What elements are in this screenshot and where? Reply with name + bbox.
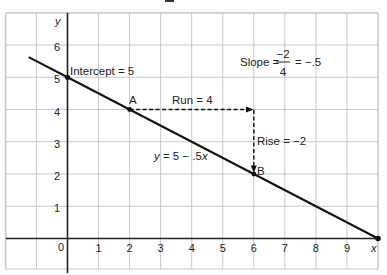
- y-tick-label: 6: [54, 41, 60, 53]
- y-tick-label: 4: [54, 106, 60, 118]
- line-series: [29, 57, 378, 238]
- point-b: [251, 172, 256, 177]
- intercept-label: Intercept = 5: [70, 65, 134, 77]
- point-b-label: B: [257, 165, 265, 177]
- slope-numerator: −2: [276, 48, 289, 60]
- point-a-label: A: [129, 94, 137, 106]
- y-tick-label: 3: [54, 138, 60, 150]
- y-tick-label: 5: [54, 73, 60, 85]
- x-tick-label: 7: [282, 242, 288, 254]
- origin-label: 0: [58, 241, 64, 253]
- run-label: Run = 4: [172, 94, 213, 106]
- x-tick-label: 1: [95, 242, 101, 254]
- cropped-title-fragment: [165, 0, 174, 2]
- slope-result: = −.5: [295, 56, 321, 68]
- x-tick-label: 2: [127, 242, 133, 254]
- run-arrowhead-icon: [246, 107, 254, 113]
- x-tick-label: 5: [220, 242, 226, 254]
- slope-prefix: Slope =: [240, 56, 280, 68]
- x-tick-label: 4: [189, 242, 195, 254]
- x-tick-label: 9: [344, 242, 350, 254]
- equation-x: x: [201, 150, 209, 162]
- equation-body: = 5 − .5: [160, 150, 202, 162]
- point-a: [127, 107, 132, 112]
- y-tick-label: 2: [54, 170, 60, 182]
- equation-label: y = 5 − .5x: [153, 150, 209, 162]
- rise-label: Rise = −2: [257, 135, 306, 147]
- x-tick-label: 8: [313, 242, 319, 254]
- slope-chart: 123456789123456 y x 0 Intercept = 5 A B …: [0, 0, 387, 275]
- x-tick-label: 6: [251, 242, 257, 254]
- slope-denominator: 4: [280, 66, 287, 78]
- y-axis-label: y: [54, 15, 62, 27]
- x-axis-label: x: [370, 242, 377, 254]
- y-tick-label: 1: [54, 202, 60, 214]
- x-intercept-point: [375, 236, 381, 242]
- x-tick-label: 3: [158, 242, 164, 254]
